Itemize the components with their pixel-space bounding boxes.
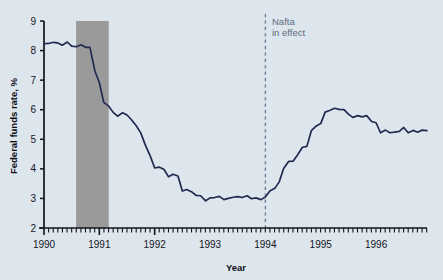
y-tick-label: 5 [30,134,36,145]
y-tick-label: 7 [30,75,36,86]
x-tick-label: 1992 [144,239,167,250]
y-axis-title: Federal funds rate, % [8,77,19,174]
x-tick-label: 1996 [365,239,388,250]
x-tick-label: 1994 [254,239,277,250]
y-tick-label: 8 [30,45,36,56]
x-tick-label: 1991 [88,239,111,250]
nafta-annotation-line1: Nafta [272,16,295,27]
y-tick-label: 2 [30,223,36,234]
x-tick-label: 1993 [199,239,222,250]
y-tick-label: 9 [30,16,36,27]
x-tick-label: 1995 [310,239,333,250]
x-axis-title: Year [226,262,246,273]
nafta-annotation-line2: in effect [272,27,305,38]
chart-figure: 98765432 1990199119921993199419951996 Fe… [0,0,443,280]
y-tick-label: 4 [30,163,36,174]
y-tick-label: 6 [30,104,36,115]
recession-shaded-region [76,21,109,228]
y-tick-label: 3 [30,193,36,204]
x-tick-label: 1990 [33,239,56,250]
shaded-band [76,21,109,228]
